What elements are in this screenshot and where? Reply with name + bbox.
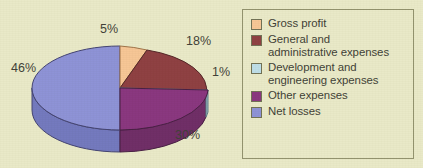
legend-label-other-expenses: Other expenses <box>268 89 348 102</box>
legend-item-general-admin: General and administrative expenses <box>251 33 407 58</box>
chart-legend: Gross profit General and administrative … <box>242 9 414 159</box>
pie-chart-svg <box>0 0 244 168</box>
legend-swatch-general-admin <box>251 35 262 46</box>
chart-figure: 5% 18% 1% 30% 46% Gross profit General a… <box>0 0 423 168</box>
legend-label-general-admin: General and administrative expenses <box>268 33 389 58</box>
legend-item-development: Development and engineering expenses <box>251 61 407 86</box>
legend-swatch-gross-profit <box>251 19 262 30</box>
legend-swatch-net-losses <box>251 107 262 118</box>
legend-label-development: Development and engineering expenses <box>268 61 378 86</box>
data-label-gross-profit: 5% <box>100 22 118 36</box>
data-label-general-admin: 18% <box>186 34 211 48</box>
legend-swatch-development <box>251 63 262 74</box>
legend-item-other-expenses: Other expenses <box>251 89 407 102</box>
data-label-other-expenses: 30% <box>175 128 200 142</box>
pie-top-face <box>32 46 208 130</box>
data-label-development: 1% <box>212 65 230 79</box>
legend-label-gross-profit: Gross profit <box>268 17 326 30</box>
pie-chart: 5% 18% 1% 30% 46% <box>0 0 244 168</box>
legend-item-gross-profit: Gross profit <box>251 17 407 30</box>
legend-swatch-other-expenses <box>251 91 262 102</box>
legend-label-net-losses: Net losses <box>268 105 321 118</box>
legend-item-net-losses: Net losses <box>251 105 407 118</box>
data-label-net-losses: 46% <box>11 61 36 75</box>
